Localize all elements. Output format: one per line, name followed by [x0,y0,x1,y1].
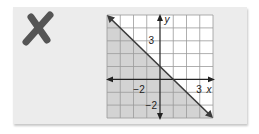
x-axis-label: x [206,84,213,95]
coordinate-graph: −2 3 x 3 −2 y [105,13,217,121]
tick-x-neg2: −2 [133,84,145,95]
tick-y-3: 3 [148,35,154,46]
y-axis-label: y [164,14,171,25]
tick-x-3: 3 [196,84,202,95]
x-mark-icon [20,10,60,46]
tick-y-neg2: −2 [146,100,158,111]
